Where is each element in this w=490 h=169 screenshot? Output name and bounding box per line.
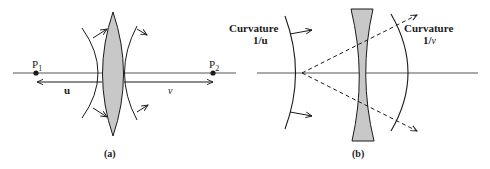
curvature-u-title: Curvature [229, 22, 278, 34]
panel-b: Curvature 1/u Curvature 1/v (b) [229, 9, 478, 160]
lens-wavefront-figure: P1 P2 u v (a) [0, 0, 490, 169]
convex-lens [103, 12, 124, 136]
figure-svg: P1 P2 u v (a) [0, 0, 490, 169]
caption-a: (a) [104, 148, 116, 160]
panel-a: P1 P2 u v (a) [13, 12, 236, 160]
curvature-v-title: Curvature [404, 22, 453, 34]
curvature-v-value: 1/v [423, 34, 437, 46]
ray-arrow-icon [137, 105, 148, 112]
distance-v-label: v [168, 85, 173, 96]
ray-arrow-icon [93, 29, 107, 38]
ray-arrow-icon [137, 29, 147, 35]
distance-u-label: u [64, 84, 70, 96]
caption-b: (b) [352, 148, 364, 160]
ray-arrow-icon [290, 30, 312, 34]
ray-arrow-icon [93, 108, 107, 117]
curvature-u-value: 1/u [253, 34, 268, 46]
ray-arrow-icon [290, 112, 312, 116]
concave-lens [351, 9, 374, 141]
